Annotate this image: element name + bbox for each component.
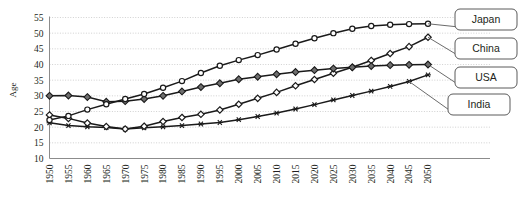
marker-open-circle (274, 47, 279, 52)
y-tick-label: 45 (34, 44, 44, 54)
x-tick-label: 1970 (121, 164, 131, 183)
callout-label-china: China (472, 42, 500, 54)
marker-open-circle (47, 117, 52, 122)
marker-open-circle (312, 36, 317, 41)
marker-open-diamond (103, 123, 109, 129)
marker-asterisk (349, 93, 355, 98)
marker-open-circle (198, 70, 203, 75)
gridlines (50, 18, 491, 143)
x-tick-label: 1995 (215, 164, 225, 183)
marker-filled-diamond (387, 62, 394, 69)
x-tick-label: 2035 (367, 164, 377, 183)
marker-filled-diamond (65, 92, 72, 99)
y-tick-label: 40 (34, 60, 44, 70)
axes (50, 17, 491, 159)
x-tick-label: 1985 (177, 164, 187, 183)
marker-filled-diamond (216, 80, 223, 87)
marker-asterisk (179, 123, 185, 128)
marker-open-circle (388, 22, 393, 27)
y-axis-title: Age (8, 83, 18, 98)
marker-open-diamond (160, 118, 166, 124)
x-tick-label: 2010 (272, 164, 282, 183)
callout-label-india: India (468, 98, 491, 110)
y-tick-label: 55 (34, 13, 44, 23)
marker-filled-diamond (84, 94, 91, 101)
callout-leader-china (428, 37, 459, 56)
callout-label-usa: USA (475, 71, 497, 83)
marker-open-circle (331, 31, 336, 36)
marker-asterisk (236, 117, 242, 122)
marker-open-circle (293, 41, 298, 46)
marker-open-diamond (292, 83, 298, 89)
marker-open-diamond (387, 50, 393, 56)
x-tick-label: 1965 (102, 164, 112, 183)
x-tick-label: 1975 (140, 164, 150, 183)
callout-leader-usa (428, 65, 459, 86)
x-tick-label: 2040 (386, 164, 396, 183)
marker-open-diamond (311, 76, 317, 82)
x-tick-label: 2005 (253, 164, 263, 183)
x-tick-label: 2025 (329, 164, 339, 183)
median-age-line-chart: 10152025303540455055Age19501955196019651… (0, 0, 530, 203)
marker-asterisk (217, 120, 223, 125)
y-tick-labels: 10152025303540455055 (34, 13, 44, 164)
marker-open-circle (123, 96, 128, 101)
marker-asterisk (198, 122, 204, 127)
marker-open-circle (236, 58, 241, 63)
marker-filled-diamond (311, 67, 318, 74)
x-tick-label: 1990 (196, 164, 206, 183)
x-tick-label: 1960 (83, 164, 93, 183)
y-tick-label: 10 (34, 154, 44, 164)
marker-filled-diamond (349, 64, 356, 71)
marker-open-circle (255, 53, 260, 58)
marker-open-circle (179, 79, 184, 84)
x-tick-label: 2020 (310, 164, 320, 183)
marker-filled-diamond (368, 63, 375, 70)
marker-open-circle (369, 23, 374, 28)
marker-open-diamond (198, 111, 204, 117)
marker-filled-diamond (254, 73, 261, 80)
x-tick-label: 2045 (404, 164, 414, 183)
x-tick-label: 1950 (45, 164, 55, 183)
marker-open-diamond (217, 107, 223, 113)
marker-asterisk (312, 102, 318, 107)
callout-leader-india (409, 81, 452, 112)
y-tick-label: 30 (34, 91, 44, 101)
x-tick-label: 2030 (348, 164, 358, 183)
marker-open-circle (85, 107, 90, 112)
marker-open-circle (142, 91, 147, 96)
x-tick-label: 1980 (158, 164, 168, 183)
marker-asterisk (293, 107, 299, 112)
x-tick-label: 2050 (423, 164, 433, 183)
marker-filled-diamond (292, 69, 299, 76)
marker-open-circle (350, 26, 355, 31)
marker-open-diamond (425, 34, 431, 40)
x-tick-label: 1955 (64, 164, 74, 183)
marker-asterisk (387, 84, 393, 89)
marker-filled-diamond (273, 71, 280, 78)
marker-open-circle (160, 85, 165, 90)
y-tick-label: 20 (34, 123, 44, 133)
marker-filled-diamond (198, 84, 205, 91)
x-tick-label: 2000 (234, 164, 244, 183)
marker-filled-diamond (235, 76, 242, 83)
x-tick-label: 2015 (291, 164, 301, 183)
marker-filled-diamond (179, 88, 186, 95)
marker-open-diamond (84, 120, 90, 126)
y-tick-label: 15 (34, 138, 44, 148)
x-tick-labels: 1950195519601965197019751980198519901995… (45, 164, 434, 183)
y-tick-label: 50 (34, 29, 44, 39)
marker-filled-diamond (46, 92, 53, 99)
marker-open-circle (406, 21, 411, 26)
marker-open-circle (104, 102, 109, 107)
y-tick-label: 35 (34, 76, 44, 86)
y-tick-label: 25 (34, 107, 44, 117)
marker-filled-diamond (330, 65, 337, 72)
marker-open-diamond (179, 114, 185, 120)
marker-open-circle (217, 63, 222, 68)
callout-label-japan: Japan (472, 13, 501, 25)
marker-filled-diamond (160, 92, 167, 99)
marker-filled-diamond (406, 61, 413, 68)
series-usa (46, 61, 431, 105)
marker-open-diamond (273, 89, 279, 95)
